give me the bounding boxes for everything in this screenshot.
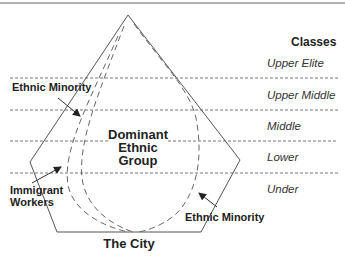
arrow-ethnic-minority-top <box>58 98 80 116</box>
dominant-ethnic-group-label: Dominant Ethnic Group <box>108 127 169 168</box>
city-class-diagram: Classes Upper Elite Upper Middle Middle … <box>0 0 345 259</box>
center-label-line3: Group <box>119 153 158 168</box>
class-label-upper-elite: Upper Elite <box>267 57 324 69</box>
label-ethnic-minority-top: Ethnic Minority <box>12 81 92 93</box>
city-outline-polygon <box>30 15 240 232</box>
class-legend: Classes Upper Elite Upper Middle Middle … <box>267 35 337 195</box>
diagram-canvas: Classes Upper Elite Upper Middle Middle … <box>0 0 345 259</box>
class-label-under: Under <box>267 183 299 195</box>
arrow-ethnic-minority-bottom <box>199 193 217 207</box>
class-label-lower: Lower <box>267 151 299 163</box>
classes-header: Classes <box>291 35 337 49</box>
class-label-middle: Middle <box>267 120 301 132</box>
label-the-city: The City <box>103 236 155 251</box>
arrow-immigrant-workers <box>32 167 61 183</box>
label-ethnic-minority-bottom: Ethnic Minority <box>185 211 265 223</box>
class-label-upper-middle: Upper Middle <box>267 89 335 101</box>
label-immigrant-line1: Immigrant <box>10 184 64 196</box>
label-immigrant-line2: Workers <box>10 196 54 208</box>
